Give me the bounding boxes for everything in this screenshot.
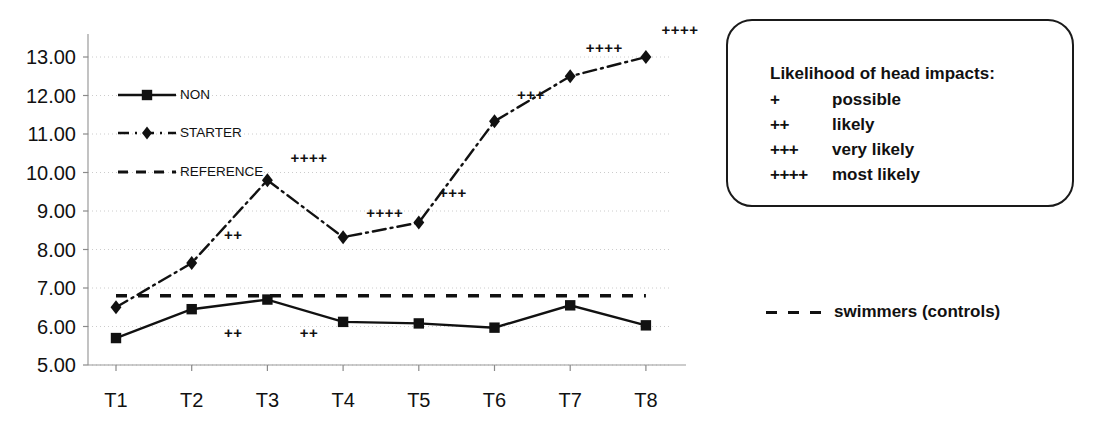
plus-annotation: ++++ [661,22,698,37]
marker-diamond [142,127,152,140]
y-tick-label-13.00: 13.00 [6,47,76,67]
y-tick-label-10.00: 10.00 [6,163,76,183]
marker-square [111,333,121,343]
y-tick-label-5.00: 5.00 [6,355,76,375]
marker-square [187,304,197,314]
plus-annotation: ++ [224,325,243,340]
legend-meaning-likely: likely [832,112,995,137]
marker-square [641,320,651,330]
marker-diamond [338,230,349,244]
y-tick-label-6.00: 6.00 [6,317,76,337]
marker-diamond [111,300,122,314]
inline-legend-glyphs [118,90,176,172]
inline-legend-label-non: NON [180,88,210,102]
legend-symbol-possible: + [770,87,832,112]
x-tick-label-T8: T8 [616,390,676,410]
chart-figure: 5.006.007.008.009.0010.0011.0012.0013.00… [0,0,1105,432]
legend-row-likely: ++ likely [770,112,995,137]
inline-legend-label-reference: REFERENCE [180,165,263,179]
dashed-line-icon [766,304,826,321]
x-tick-label-T3: T3 [237,390,297,410]
plus-annotation: ++++ [291,150,328,165]
y-tick-label-8.00: 8.00 [6,240,76,260]
legend-meaning-very-likely: very likely [832,137,995,162]
legend-symbol-most-likely: ++++ [770,162,832,187]
plus-annotation: ++ [300,325,319,340]
x-tick-label-T5: T5 [389,390,449,410]
likelihood-legend-box: Likelihood of head impacts: + possible +… [726,19,1074,207]
legend-symbol-very-likely: +++ [770,137,832,162]
y-tick-label-12.00: 12.00 [6,86,76,106]
x-tick-label-T7: T7 [540,390,600,410]
legend-row-possible: + possible [770,87,995,112]
marker-square [338,317,348,327]
swimmers-controls-label: swimmers (controls) [834,302,1000,322]
y-tick-label-9.00: 9.00 [6,201,76,221]
x-tick-label-T6: T6 [465,390,525,410]
marker-square [565,300,575,310]
y-tick-label-7.00: 7.00 [6,278,76,298]
legend-meaning-possible: possible [832,87,995,112]
marker-diamond [565,69,576,83]
plus-annotation: +++ [439,184,467,199]
legend-row-very-likely: +++ very likely [770,137,995,162]
y-tick-label-11.00: 11.00 [6,124,76,144]
x-tick-label-T4: T4 [313,390,373,410]
legend-symbol-likely: ++ [770,112,832,137]
plus-annotation: ++++ [366,204,403,219]
marker-square [414,318,424,328]
plus-annotation: ++++ [586,40,623,55]
marker-square [142,90,152,100]
marker-diamond [640,50,651,64]
swimmers-controls-note: swimmers (controls) [766,302,1000,322]
likelihood-legend-content: Likelihood of head impacts: + possible +… [770,61,995,187]
marker-square [489,322,499,332]
x-tick-label-T1: T1 [86,390,146,410]
likelihood-legend-title: Likelihood of head impacts: [770,61,995,86]
plus-annotation: +++ [517,86,545,101]
legend-row-most-likely: ++++ most likely [770,162,995,187]
legend-meaning-most-likely: most likely [832,162,995,187]
inline-legend-label-starter: STARTER [180,126,242,140]
x-tick-label-T2: T2 [162,390,222,410]
plus-annotation: ++ [224,227,243,242]
